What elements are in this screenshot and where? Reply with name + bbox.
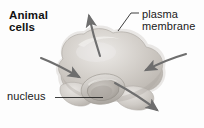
plasma-membrane-label-line2: membrane: [142, 21, 195, 33]
plasma-membrane-label: plasma membrane: [142, 9, 195, 33]
animal-cell-diagram: Animal cells plasma membrane nucleus: [0, 0, 204, 128]
figure-title: Animal cells: [9, 9, 48, 34]
nucleus-label: nucleus: [7, 91, 46, 103]
plasma-membrane-label-line1: plasma: [142, 8, 178, 20]
leader-plasma-membrane: [118, 13, 139, 31]
figure-title-line2: cells: [9, 21, 48, 33]
figure-title-line1: Animal: [9, 9, 48, 21]
